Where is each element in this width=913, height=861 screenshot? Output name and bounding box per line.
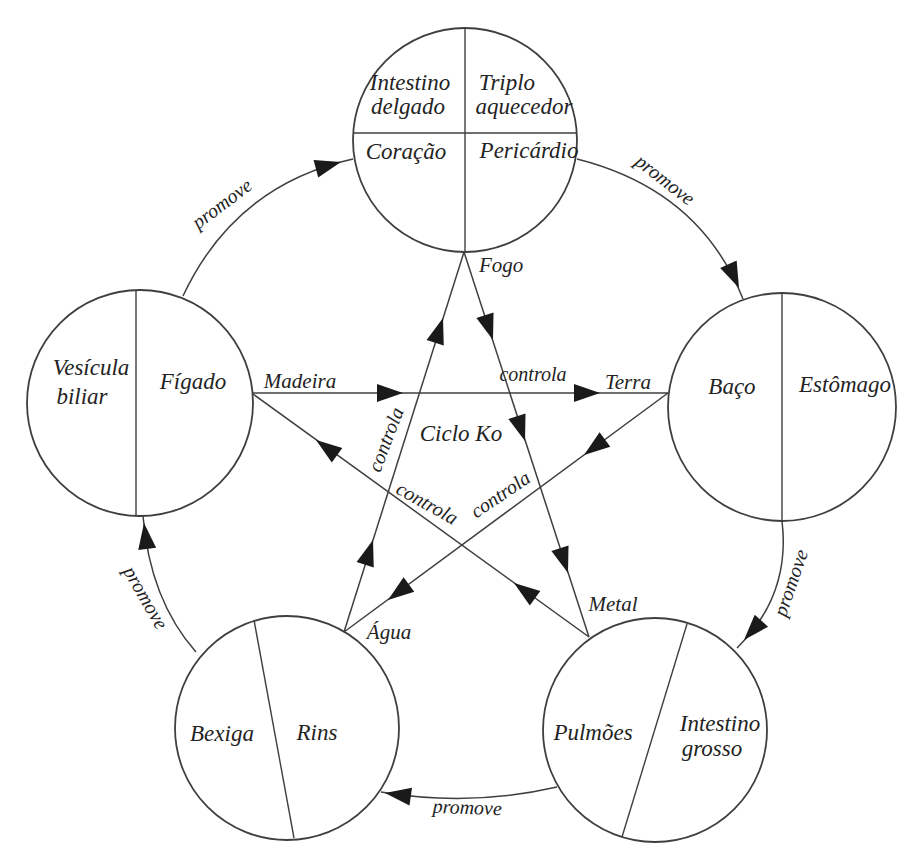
diagram-canvas: Intestino delgado Triplo aquecedor Coraç…	[0, 0, 913, 861]
organ-lungs: Pulmões	[552, 720, 632, 745]
organ-pericardium: Pericárdio	[479, 138, 579, 163]
label-controla-water-fire: controla	[363, 404, 408, 474]
label-element-water: Água	[365, 620, 411, 644]
water-divider	[254, 620, 294, 838]
arrowhead-wood-to-fire	[314, 153, 344, 177]
organ-stomach: Estômago	[798, 372, 891, 397]
organ-heart: Coração	[366, 139, 447, 164]
organ-bladder: Bexiga	[190, 721, 254, 746]
arrowhead-fire-metal-3	[551, 545, 576, 575]
organ-small-intestine-line1: Intestino	[369, 70, 451, 95]
arrowhead-metal-wood-2	[311, 433, 343, 463]
label-promove-wood-fire: promove	[186, 174, 257, 235]
label-cycle-title: Ciclo Ko	[420, 421, 502, 446]
organ-gallbladder-line2: biliar	[56, 384, 108, 409]
arrowhead-wood-earth-2	[574, 384, 600, 402]
node-metal: Pulmões Intestino grosso	[543, 618, 767, 842]
label-element-metal: Metal	[588, 592, 638, 616]
node-wood: Vesícula biliar Fígado	[27, 290, 253, 516]
organ-gallbladder-line1: Vesícula	[53, 355, 130, 380]
arrowhead-fire-metal-1	[476, 312, 501, 342]
arrowhead-fire-metal-2	[508, 413, 533, 443]
arrowhead-fire-to-earth	[720, 261, 747, 292]
organ-liver: Fígado	[159, 369, 226, 394]
organ-triple-burner-line1: Triplo	[479, 70, 535, 95]
arrowhead-wood-earth-1	[377, 384, 403, 402]
arrowhead-water-to-wood	[135, 522, 156, 550]
arrowhead-earth-water-2	[383, 577, 415, 607]
label-promove-water-wood: promove	[117, 560, 173, 633]
label-promove-earth-metal: promove	[768, 546, 813, 621]
node-water: Bexiga Rins	[175, 616, 399, 840]
organ-small-intestine-line2: delgado	[371, 94, 445, 119]
node-fire: Intestino delgado Triplo aquecedor Coraç…	[353, 28, 578, 252]
five-elements-diagram: Intestino delgado Triplo aquecedor Coraç…	[0, 0, 913, 861]
label-element-wood: Madeira	[263, 369, 336, 393]
label-element-fire: Fogo	[478, 253, 523, 277]
organ-large-intestine-line2: grosso	[682, 736, 743, 761]
arrowhead-earth-water-1	[579, 432, 611, 462]
label-controla-earth-water: controla	[466, 466, 534, 522]
label-promove-fire-earth: promove	[629, 148, 699, 210]
label-element-earth: Terra	[605, 370, 651, 394]
arrowhead-water-fire-1	[357, 537, 382, 567]
arc-wood-to-fire	[183, 159, 353, 296]
label-promove-metal-water: promove	[430, 795, 502, 820]
arrowhead-earth-to-metal	[737, 615, 768, 646]
label-controla-wood-earth: controla	[499, 363, 566, 385]
organ-kidneys: Rins	[296, 720, 338, 745]
arrowhead-metal-to-water	[384, 784, 412, 805]
organ-spleen: Baço	[708, 374, 755, 399]
node-earth: Baço Estômago	[668, 293, 896, 521]
organ-triple-burner-line2: aquecedor	[475, 94, 573, 119]
arrowhead-metal-wood-1	[509, 576, 541, 606]
arrowhead-water-fire-2	[427, 315, 452, 345]
organ-large-intestine-line1: Intestino	[679, 711, 761, 736]
